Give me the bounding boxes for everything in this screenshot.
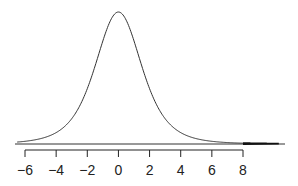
upper-tail-shading bbox=[243, 142, 279, 145]
density-chart: −6−4−202468 bbox=[0, 0, 298, 186]
x-tick-label: −4 bbox=[48, 162, 64, 178]
x-tick-label: −6 bbox=[17, 162, 33, 178]
x-tick-label: 8 bbox=[239, 162, 247, 178]
x-tick-label: 4 bbox=[177, 162, 185, 178]
x-tick-label: 0 bbox=[115, 162, 123, 178]
x-tick-label: −2 bbox=[79, 162, 95, 178]
density-curve bbox=[17, 12, 243, 143]
x-axis: −6−4−202468 bbox=[17, 150, 247, 178]
x-tick-label: 2 bbox=[146, 162, 154, 178]
x-tick-label: 6 bbox=[208, 162, 216, 178]
